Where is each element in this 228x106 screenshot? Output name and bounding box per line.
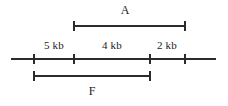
- fragment-a-group: A: [74, 3, 185, 31]
- fragment-f-label: F: [89, 84, 96, 98]
- segment-labels-group: 5 kb 4 kb 2 kb: [44, 39, 177, 51]
- restriction-map-diagram: A 5 kb 4 kb 2 kb F: [0, 0, 228, 106]
- segment-label-4kb: 4 kb: [102, 39, 122, 51]
- fragment-f-group: F: [34, 71, 150, 98]
- segment-label-2kb: 2 kb: [157, 39, 177, 51]
- diagram-canvas: A 5 kb 4 kb 2 kb F: [0, 0, 228, 106]
- segment-label-5kb: 5 kb: [44, 39, 64, 51]
- fragment-a-label: A: [121, 3, 130, 17]
- dna-axis-group: [11, 54, 216, 64]
